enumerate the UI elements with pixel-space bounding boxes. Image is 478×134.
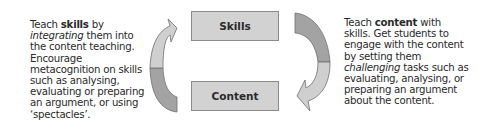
- right-curved-arrow-icon: [295, 13, 330, 111]
- left-curved-arrow-icon: [150, 19, 177, 112]
- skills-box-label: Skills: [219, 20, 251, 32]
- skills-box: Skills: [191, 11, 279, 41]
- content-box: Content: [191, 81, 279, 111]
- content-box-label: Content: [211, 90, 258, 102]
